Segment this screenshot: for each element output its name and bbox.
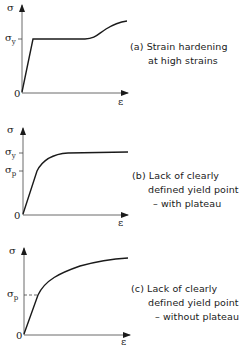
panel-a-chart	[18, 5, 128, 93]
caption-c-line1: (c) Lack of clearly	[131, 283, 217, 295]
origin-label: 0	[16, 331, 22, 341]
x-axis-label: ε	[118, 97, 123, 107]
sigma-p-label: σp	[5, 165, 16, 176]
x-axis-label: ε	[118, 218, 123, 228]
x-axis-label: ε	[121, 337, 126, 346]
panel-b-chart	[19, 128, 128, 215]
stress-strain-curve-a	[22, 21, 127, 92]
caption-a-line2: at high strains	[148, 55, 218, 67]
origin-label: 0	[14, 211, 20, 221]
caption-b-line1: (b) Lack of clearly	[132, 170, 219, 182]
caption-b-line2: defined yield point	[148, 184, 239, 196]
caption-b-line3: – with plateau	[153, 198, 221, 210]
sigma-y-label: σy	[5, 147, 16, 158]
stress-strain-curve-b	[23, 152, 128, 214]
caption-c-line3: – without plateau	[155, 311, 239, 323]
sigma-p-label: σp	[7, 289, 18, 300]
caption-a-line1: (a) Strain hardening	[130, 41, 228, 53]
y-axis-label: σ	[7, 125, 14, 135]
caption-c-line2: defined yield point	[148, 297, 239, 309]
sigma-y-label: σy	[5, 33, 16, 44]
y-axis-label: σ	[7, 3, 14, 13]
y-axis-label: σ	[9, 246, 16, 256]
panel-c-chart	[24, 248, 130, 335]
origin-label: 0	[14, 89, 20, 99]
stress-strain-curve-c	[24, 258, 128, 334]
